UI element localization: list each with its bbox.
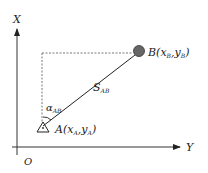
point-a-marker xyxy=(37,122,49,132)
distance-label: SAB xyxy=(93,81,110,94)
azimuth-label: αAB xyxy=(46,102,62,114)
coordinate-diagram: X Y O B(xB,yB) A(xA,yA) SAB αAB xyxy=(0,0,208,173)
point-b-marker xyxy=(134,46,145,57)
segment-ab xyxy=(43,55,135,126)
point-a-label: A(xA,yA) xyxy=(54,123,96,136)
azimuth-arc xyxy=(43,117,51,120)
y-axis-label: Y xyxy=(186,141,195,154)
origin-label: O xyxy=(24,156,32,167)
point-b-label: B(xB,yB) xyxy=(147,46,189,59)
x-axis-label: X xyxy=(12,13,22,26)
